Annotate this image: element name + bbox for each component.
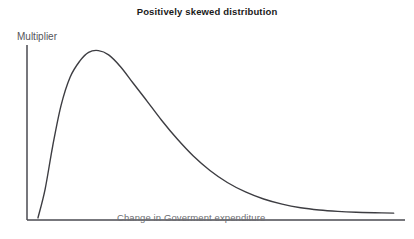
x-axis-label: Change in Goverment expenditure	[117, 212, 265, 223]
chart-figure: Positively skewed distribution Multiplie…	[0, 0, 414, 239]
plot-area	[0, 0, 414, 239]
distribution-curve	[38, 50, 394, 218]
